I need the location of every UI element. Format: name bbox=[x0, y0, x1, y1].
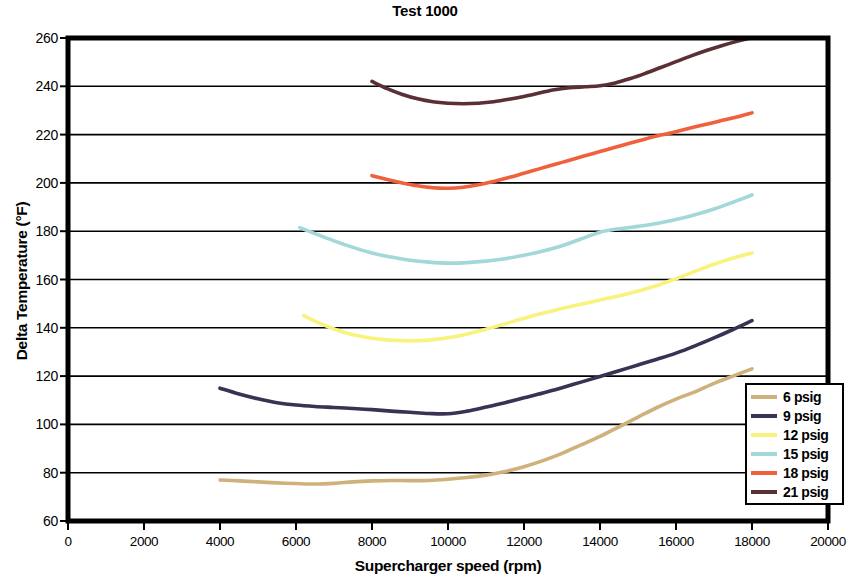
legend-item[interactable]: 9 psig bbox=[747, 406, 842, 425]
legend-item-label: 15 psig bbox=[783, 446, 828, 462]
legend-item[interactable]: 15 psig bbox=[747, 444, 842, 463]
x-tick-label: 4000 bbox=[180, 535, 260, 549]
x-tick-label: 10000 bbox=[408, 535, 488, 549]
legend-item[interactable]: 21 psig bbox=[747, 482, 842, 501]
x-tick-label: 14000 bbox=[560, 535, 640, 549]
legend-item-label: 21 psig bbox=[783, 484, 828, 500]
x-tick-label: 20000 bbox=[788, 535, 850, 549]
legend-color-swatch bbox=[751, 433, 777, 437]
y-tick-label: 180 bbox=[6, 224, 58, 238]
series-group bbox=[220, 38, 752, 485]
legend-item[interactable]: 12 psig bbox=[747, 425, 842, 444]
x-tick-label: 2000 bbox=[104, 535, 184, 549]
chart-container: Test 1000 Delta Temperature (°F) Superch… bbox=[0, 0, 850, 583]
y-tick-label: 120 bbox=[6, 369, 58, 383]
y-tick-label: 160 bbox=[6, 273, 58, 287]
x-tick-label: 0 bbox=[28, 535, 108, 549]
legend-color-swatch bbox=[751, 395, 777, 399]
y-tick-label: 100 bbox=[6, 417, 58, 431]
series-line bbox=[372, 38, 752, 104]
series-line bbox=[220, 369, 752, 484]
legend-color-swatch bbox=[751, 414, 777, 418]
y-tick-label: 240 bbox=[6, 79, 58, 93]
y-tick-label: 140 bbox=[6, 321, 58, 335]
y-tick-label: 200 bbox=[6, 176, 58, 190]
x-tick-label: 16000 bbox=[636, 535, 716, 549]
x-tick-label: 18000 bbox=[712, 535, 792, 549]
y-tick-label: 220 bbox=[6, 128, 58, 142]
x-tick-label: 6000 bbox=[256, 535, 336, 549]
plot-area bbox=[0, 0, 850, 583]
legend-item-label: 18 psig bbox=[783, 465, 828, 481]
legend-item[interactable]: 18 psig bbox=[747, 463, 842, 482]
legend-color-swatch bbox=[751, 490, 777, 494]
legend-item-label: 12 psig bbox=[783, 427, 828, 443]
legend-color-swatch bbox=[751, 471, 777, 475]
legend-item[interactable]: 6 psig bbox=[747, 387, 842, 406]
chart-legend: 6 psig9 psig12 psig15 psig18 psig21 psig bbox=[745, 383, 844, 505]
series-line bbox=[372, 113, 752, 188]
y-tick-label: 80 bbox=[6, 466, 58, 480]
y-tick-label: 260 bbox=[6, 31, 58, 45]
legend-item-label: 9 psig bbox=[783, 408, 821, 424]
series-line bbox=[300, 195, 752, 263]
x-tick-label: 8000 bbox=[332, 535, 412, 549]
legend-item-label: 6 psig bbox=[783, 389, 821, 405]
x-tick-label: 12000 bbox=[484, 535, 564, 549]
y-tick-label: 60 bbox=[6, 514, 58, 528]
legend-color-swatch bbox=[751, 452, 777, 456]
